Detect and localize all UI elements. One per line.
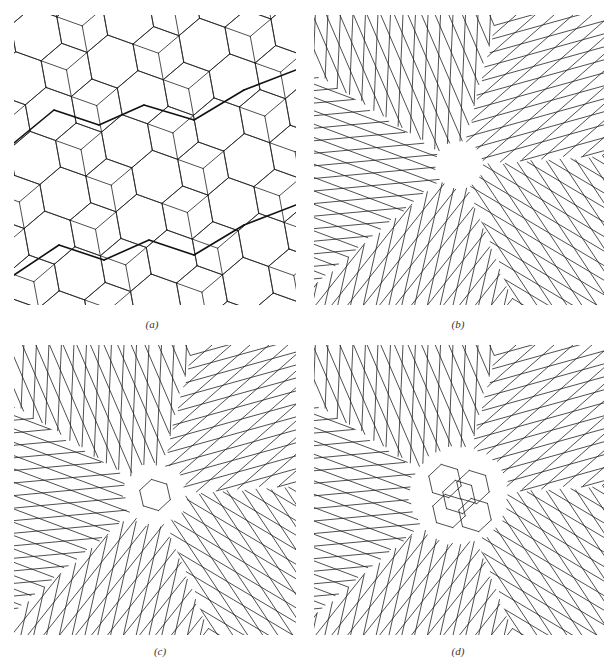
tiling-diagram-c (14, 345, 296, 635)
tiling-diagram-b (314, 15, 604, 305)
caption-a: (a) (112, 318, 192, 330)
tiling-diagram-d (314, 345, 604, 635)
caption-b: (b) (418, 318, 498, 330)
tiling-diagram-a (14, 15, 296, 305)
caption-c: (c) (120, 645, 200, 657)
panel-c (14, 345, 296, 635)
panel-a (14, 15, 296, 305)
panel-d (314, 345, 604, 635)
panel-b (314, 15, 604, 305)
caption-d: (d) (418, 645, 498, 657)
